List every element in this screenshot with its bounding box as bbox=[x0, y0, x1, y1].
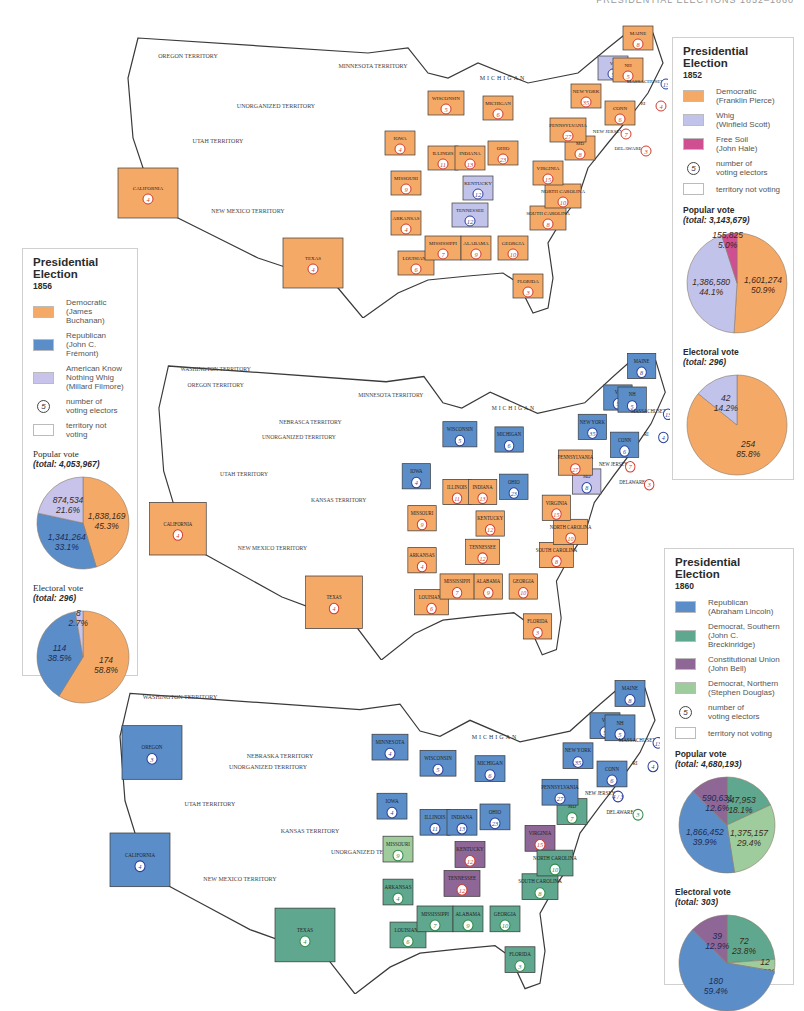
legend-title: Presidential Election bbox=[675, 556, 785, 580]
state-label: NEW JERSEY bbox=[593, 129, 624, 134]
lake-label: MICHIGAN bbox=[492, 405, 536, 411]
map-1852: OREGON TERRITORYMINNESOTA TERRITORYUNORG… bbox=[108, 18, 668, 318]
state-label: KENTUCKY bbox=[456, 846, 484, 852]
pie-popular-1860: 847,95318.1%1,375,15729.4%1,866,45239.9%… bbox=[675, 773, 785, 877]
state-arkansas: ARKANSAS4 bbox=[408, 548, 436, 573]
electors-circle-icon: 5 bbox=[37, 400, 50, 413]
pie-electoral-1852: 25485.8%4214.2% bbox=[683, 371, 785, 479]
popular-vote-total: (total: 3,143,679) bbox=[683, 215, 785, 225]
state-label: OREGON bbox=[142, 744, 163, 750]
state-label: ARKANSAS bbox=[409, 553, 435, 558]
state-label: ARKANSAS bbox=[393, 216, 420, 221]
swatch-republican bbox=[675, 601, 696, 613]
electors-count: 3 bbox=[635, 811, 640, 818]
state-label: INDIANA bbox=[451, 814, 473, 820]
state-label: TEXAS bbox=[305, 256, 321, 261]
state-texas: TEXAS4 bbox=[306, 576, 363, 629]
state-minnesota: MINNESOTA4 bbox=[372, 734, 408, 760]
state-label: MICHIGAN bbox=[497, 432, 521, 437]
state-mississippi: MISSISSIPPI7 bbox=[417, 906, 453, 932]
popular-vote-title: Popular vote bbox=[683, 205, 785, 215]
state-florida: FLORIDA3 bbox=[513, 274, 543, 298]
state-label: IOWA bbox=[385, 798, 398, 804]
state-label: MISSISSIPPI bbox=[429, 241, 457, 246]
state-label: CONN bbox=[605, 766, 619, 772]
electors-count: 10 bbox=[502, 922, 509, 929]
lake-label: MICHIGAN bbox=[472, 732, 519, 739]
state-wisconsin: WISCONSIN5 bbox=[428, 91, 464, 115]
pie-percent-label: 18.1% bbox=[728, 805, 753, 815]
state-texas: TEXAS4 bbox=[275, 908, 335, 962]
legend-candidate: (John Hale) bbox=[716, 144, 757, 153]
swatch-democratic bbox=[33, 306, 54, 318]
state-ohio: OHIO23 bbox=[488, 141, 518, 165]
state-label: SOUTH CAROLINA bbox=[536, 548, 578, 553]
electors-count: 3 bbox=[517, 963, 522, 970]
legend-item-republican: Republican(Abraham Lincoln) bbox=[675, 598, 785, 616]
pie-value-label: 1,341,264 bbox=[48, 532, 86, 542]
pie-value-label: 590,631 bbox=[702, 793, 733, 803]
state-label: TEXAS bbox=[297, 927, 313, 933]
state-label: IOWA bbox=[410, 469, 423, 474]
state-conn: CONN6 bbox=[597, 761, 627, 787]
electoral-vote-title: Electoral vote bbox=[683, 347, 785, 357]
state-missouri: MISSOURI9 bbox=[408, 506, 436, 531]
electors-count: 3 bbox=[535, 629, 540, 636]
pie-percent-label: 2.7% bbox=[68, 618, 89, 628]
electors-count: 23 bbox=[511, 489, 518, 496]
state-label: SOUTH CAROLINA bbox=[526, 211, 570, 216]
electoral-vote-total: (total: 296) bbox=[33, 593, 129, 603]
swatch-constitutional-union bbox=[675, 658, 696, 670]
legend-party: Democrat, Northern bbox=[708, 679, 778, 688]
state-illinois: ILLINOIS11 bbox=[443, 479, 471, 504]
legend-item-electors: 5 number ofvoting electors bbox=[683, 159, 785, 177]
state-new-york: NEW YORK35 bbox=[578, 414, 606, 439]
state-alabama: ALABAMA9 bbox=[453, 906, 483, 932]
electors-count: 11 bbox=[454, 495, 460, 502]
popular-vote-total: (total: 4,680,193) bbox=[675, 759, 785, 769]
electors-count: 11 bbox=[440, 161, 446, 168]
state-label: NEW JERSEY bbox=[585, 790, 615, 796]
state-south-carolina: SOUTH CAROLINA8 bbox=[536, 542, 578, 567]
state-label: IOWA bbox=[393, 136, 406, 141]
state-label: CALIFORNIA bbox=[164, 521, 193, 526]
state-alabama: ALABAMA9 bbox=[474, 574, 502, 599]
territory-label: UTAH TERRITORY bbox=[193, 138, 244, 144]
territory-label: KANSAS TERRITORY bbox=[281, 827, 340, 834]
state-ri: RI4 bbox=[633, 760, 658, 772]
state-maine: MAINE8 bbox=[627, 353, 655, 378]
legend-party: Whig bbox=[716, 111, 734, 120]
state-delaware: DELAWARE3 bbox=[619, 479, 654, 490]
legend-party: Nothing Whig bbox=[66, 373, 114, 382]
state-georgia: GEORGIA10 bbox=[490, 906, 520, 932]
state-california: CALIFORNIA4 bbox=[149, 503, 206, 556]
territory-label: UTAH TERRITORY bbox=[185, 800, 236, 807]
legend-year: 1860 bbox=[675, 581, 785, 591]
legend-candidate: (John C. Breckinridge) bbox=[708, 631, 755, 649]
state-ri: RI4 bbox=[641, 101, 667, 111]
state-conn: CONN6 bbox=[610, 432, 638, 457]
electors-count: 10 bbox=[510, 251, 517, 258]
state-label: ILLINOIS bbox=[447, 485, 467, 490]
state-label: NH bbox=[629, 392, 636, 397]
legend-item-know-nothing: American KnowNothing Whig(Millard Filmor… bbox=[33, 364, 129, 391]
legend-party: Free Soil bbox=[716, 135, 748, 144]
territory-label: UNORGANIZED TERRITORY bbox=[237, 103, 316, 109]
state-label: OHIO bbox=[508, 479, 520, 484]
state-conn: CONN6 bbox=[605, 101, 635, 125]
state-kentucky: KENTUCKY12 bbox=[463, 176, 493, 200]
state-maine: MAINE8 bbox=[623, 26, 653, 50]
pie-percent-label: 50.9% bbox=[751, 285, 776, 295]
state-pennsylvania: PENNSYLVANIA27 bbox=[558, 450, 594, 475]
state-label: FLORIDA bbox=[527, 619, 548, 624]
pie-value-label: 39 bbox=[712, 931, 722, 941]
pie-value-label: 174 bbox=[99, 655, 113, 665]
swatch-free-soil bbox=[683, 138, 704, 150]
pie-electoral-1856: 17458.8%11438.5%82.7% bbox=[33, 607, 129, 707]
pie-percent-label: 12.6% bbox=[705, 803, 730, 813]
state-label: INDIANA bbox=[473, 485, 494, 490]
legend-item-whig: Whig(Winfield Scott) bbox=[683, 111, 785, 129]
electoral-vote-title: Electoral vote bbox=[33, 583, 129, 593]
electors-count: 13 bbox=[655, 739, 660, 746]
state-maine: MAINE8 bbox=[615, 681, 645, 707]
